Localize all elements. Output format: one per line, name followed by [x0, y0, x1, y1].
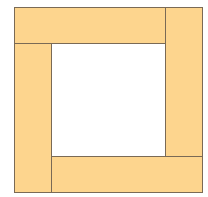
right-rectangle: [165, 7, 203, 157]
center-square: [52, 44, 165, 156]
top-rectangle: [14, 7, 166, 44]
bottom-rectangle: [51, 156, 203, 193]
left-rectangle: [14, 43, 52, 193]
